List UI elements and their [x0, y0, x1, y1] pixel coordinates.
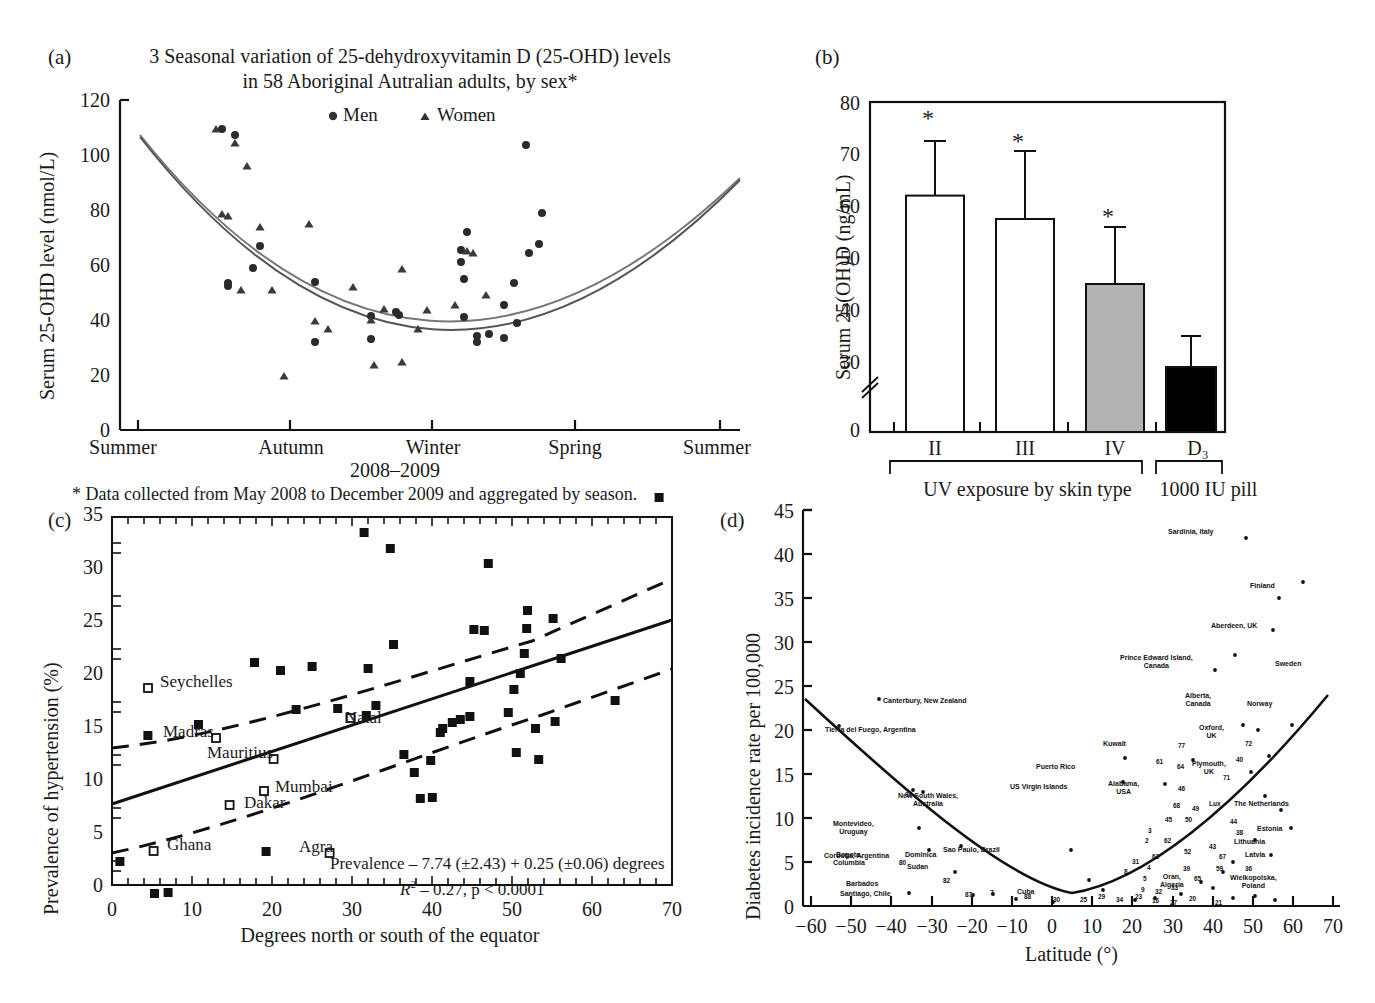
- panel-d-ytick-15: 15: [752, 764, 794, 787]
- numeric-label-50: 50: [1185, 816, 1192, 823]
- panel-b-ytick-0: 0: [818, 419, 860, 442]
- panel-d-ytick-20: 20: [752, 720, 794, 743]
- panel-b-group-brackets: [870, 458, 1240, 476]
- numeric-label-46: 46: [1178, 785, 1185, 792]
- panel-c-xtick-50: 50: [487, 898, 537, 921]
- numeric-label-39: 39: [1183, 865, 1190, 872]
- label-sao-paulo-brazil: Sao Paulo, Brazil: [943, 846, 1000, 854]
- panel-d-ytick-45: 45: [752, 500, 794, 523]
- numeric-label-64: 64: [1177, 763, 1184, 770]
- panel-c-ytick-0: 0: [58, 874, 103, 897]
- bar-II: [906, 196, 964, 432]
- panel-d-ytick-35: 35: [752, 588, 794, 611]
- label-montevideo-uruguay: Montevideo,Uruguay: [833, 820, 874, 836]
- numeric-label-43: 43: [1209, 843, 1216, 850]
- label-kuwait: Kuwait: [1103, 740, 1126, 748]
- numeric-label-67: 67: [1219, 853, 1226, 860]
- label-the-netherlands: The Netherlands: [1234, 800, 1289, 808]
- panel-a-ytick-20: 20: [58, 364, 110, 387]
- panel-a-xtick-summer-1: Summer: [68, 436, 178, 459]
- numeric-label-87: 87: [965, 891, 972, 898]
- panel-d-ytick-10: 10: [752, 808, 794, 831]
- label-us-virgin-islands: US Virgin Islands: [1010, 783, 1067, 791]
- point-ghana: [150, 847, 158, 855]
- label-santiago-chile: Santiago, Chile: [840, 890, 891, 898]
- numeric-label-21: 21: [1215, 899, 1222, 906]
- label-latvia: Latvia: [1245, 851, 1265, 859]
- panel-c-ytick-25: 25: [58, 609, 103, 632]
- panel-b-group-label-uv: UV exposure by skin type: [890, 478, 1165, 501]
- point-dakar: [226, 801, 234, 809]
- significance-marker-II: *: [922, 105, 934, 132]
- panel-c-ytick-15: 15: [58, 715, 103, 738]
- panel-a-title-line2: in 58 Aboriginal Autralian adults, by se…: [95, 69, 725, 94]
- numeric-label-44: 44: [1230, 818, 1237, 825]
- numeric-label-7: 7: [990, 889, 994, 896]
- category-label-IV: IV: [1090, 437, 1140, 460]
- numeric-label-68: 68: [1173, 802, 1180, 809]
- label-finland: Finland: [1250, 582, 1275, 590]
- numeric-label-62: 62: [1164, 837, 1171, 844]
- numeric-label-97: 97: [905, 791, 912, 798]
- label-alabama-usa: Alabama,USA: [1108, 780, 1139, 796]
- numeric-label-34: 34: [1116, 896, 1123, 903]
- numeric-label-82: 82: [943, 877, 950, 884]
- numeric-label-40: 40: [1236, 756, 1243, 763]
- panel-a-ylabel: Serum 25-OHD level (nmol/L): [36, 152, 59, 400]
- label-puerto-rico: Puerto Rico: [1036, 763, 1075, 771]
- panel-a-xtick-autumn: Autumn: [236, 436, 346, 459]
- panel-b-ytick-70: 70: [818, 143, 860, 166]
- category-label-III: III: [1000, 437, 1050, 460]
- numeric-label-31: 31: [1132, 858, 1139, 865]
- bar-D3: [1166, 367, 1216, 432]
- panel-a-plot: [120, 100, 745, 445]
- label-barbados: Barbados: [846, 880, 878, 888]
- panel-c-xtick-60: 60: [567, 898, 617, 921]
- label-ghana: Ghana: [167, 835, 211, 855]
- numeric-label-29: 29: [1098, 893, 1105, 900]
- numeric-label-3: 3: [1148, 827, 1152, 834]
- panel-c-ytick-35: 35: [58, 503, 103, 526]
- label-prince-edward-island-canada: Prince Edward Island,Canada: [1120, 654, 1193, 670]
- panel-d-ytick-5: 5: [752, 852, 794, 875]
- numeric-label-59: 59: [1216, 865, 1223, 872]
- numeric-label-36: 36: [1245, 865, 1252, 872]
- panel-b-tag: (b): [815, 45, 840, 70]
- bar-III: [996, 219, 1054, 432]
- numeric-label-38: 38: [1236, 829, 1243, 836]
- label-agra: Agra: [299, 837, 333, 857]
- panel-a: (a) 3 Seasonal variation of 25-dehydroxy…: [0, 0, 790, 500]
- panel-d-points: [837, 536, 1305, 904]
- panel-b-ytick-30: 30: [818, 351, 860, 374]
- significance-marker-III: *: [1012, 128, 1024, 155]
- panel-c: (c) Prevalence of hypertension (%) 35 30…: [0, 500, 700, 1003]
- panel-b-ytick-80: 80: [818, 92, 860, 115]
- panel-d-ytick-25: 25: [752, 676, 794, 699]
- panel-a-ytick-60: 60: [58, 254, 110, 277]
- label-aberdeen-uk: Aberdeen, UK: [1211, 622, 1257, 630]
- category-label-D3: D₃: [1173, 437, 1223, 460]
- label-alberta-canada: Alberta,Canada: [1185, 692, 1211, 708]
- panel-b-ytick-50: 50: [818, 247, 860, 270]
- panel-c-xlabel: Degrees north or south of the equator: [110, 924, 670, 947]
- numeric-label-33: 33: [1171, 884, 1178, 891]
- numeric-label-63: 63: [1152, 853, 1159, 860]
- panel-a-ytick-120: 120: [58, 89, 110, 112]
- label-bogota-columbia: Bogota,Columbia: [833, 851, 865, 867]
- numeric-label-20: 20: [1189, 895, 1196, 902]
- panel-c-xtick-10: 10: [167, 898, 217, 921]
- panel-b-group-label-pill: 1000 IU pill: [1156, 478, 1261, 501]
- panel-c-xtick-0: 0: [87, 898, 137, 921]
- label-oxford-uk: Oxford,UK: [1199, 724, 1224, 740]
- label-sudan: Sudan: [907, 863, 928, 871]
- label-seychelles: Seychelles: [160, 672, 233, 692]
- panel-d-xtick-70: 70: [1308, 915, 1358, 938]
- numeric-label-27: 27: [1170, 899, 1177, 906]
- panel-b-ytick-40: 40: [818, 299, 860, 322]
- r-squared-symbol: R: [400, 880, 410, 899]
- panel-a-title-line1: 3 Seasonal variation of 25-dehydroxyvita…: [95, 44, 725, 69]
- numeric-label-80: 80: [899, 859, 906, 866]
- label-dominica: Dominica: [905, 851, 937, 859]
- panel-c-ytick-30: 30: [58, 556, 103, 579]
- numeric-label-45: 45: [1165, 816, 1172, 823]
